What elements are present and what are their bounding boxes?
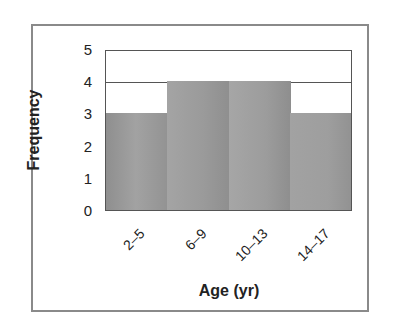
- bar-10–13: [229, 81, 291, 210]
- bar-2–5: [105, 113, 167, 210]
- plot-area: [105, 50, 352, 211]
- x-axis-title: Age (yr): [199, 282, 259, 300]
- bar-14–17: [290, 113, 352, 210]
- y-tick-0: 0: [72, 203, 92, 219]
- bar-6–9: [167, 81, 229, 210]
- y-tick-5: 5: [72, 42, 92, 58]
- y-tick-3: 3: [72, 106, 92, 122]
- y-tick-1: 1: [72, 171, 92, 187]
- y-axis-title: Frequency: [25, 90, 43, 171]
- y-tick-2: 2: [72, 139, 92, 155]
- y-tick-4: 4: [72, 74, 92, 90]
